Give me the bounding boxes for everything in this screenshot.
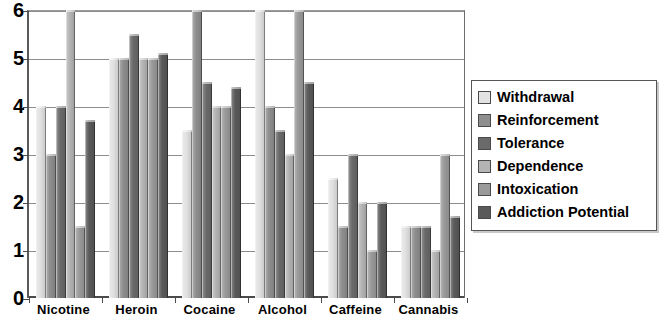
y-tick-label: 6: [2, 0, 24, 20]
x-tick-label: Nicotine: [37, 302, 90, 317]
chart-legend: WithdrawalReinforcementToleranceDependen…: [471, 80, 657, 231]
y-tick-mark: [23, 155, 29, 156]
legend-item[interactable]: Withdrawal: [478, 86, 650, 109]
legend-label: Intoxication: [497, 182, 578, 197]
plot-inner: [29, 11, 464, 298]
bar: [158, 53, 168, 298]
y-tick-mark: [23, 203, 29, 204]
plot-area: [27, 10, 465, 298]
bar: [285, 154, 295, 298]
legend-swatch-icon: [478, 91, 491, 104]
bar: [440, 154, 450, 298]
bar: [377, 202, 387, 298]
bar: [275, 130, 285, 298]
legend-swatch-icon: [478, 206, 491, 219]
bar: [338, 226, 348, 298]
bar: [46, 154, 56, 298]
bar-group-bars: [109, 11, 167, 298]
y-tick-label: 5: [2, 48, 24, 68]
legend-swatch-icon: [478, 137, 491, 150]
y-tick-label: 3: [2, 144, 24, 164]
bar: [328, 178, 338, 298]
bar-group: [182, 11, 240, 298]
legend-label: Reinforcement: [497, 113, 599, 128]
bar: [348, 154, 358, 298]
bar-group-bars: [36, 11, 94, 298]
bar: [75, 226, 85, 298]
x-tick-label: Cocaine: [184, 302, 236, 317]
x-tick-label: Cannabis: [398, 302, 458, 317]
legend-label: Addiction Potential: [497, 205, 629, 220]
bar: [85, 120, 95, 298]
y-tick-mark: [23, 107, 29, 108]
bar: [202, 82, 212, 298]
y-tick-label: 0: [2, 288, 24, 308]
y-tick-label: 2: [2, 192, 24, 212]
legend-item[interactable]: Addiction Potential: [478, 201, 650, 224]
bar: [231, 87, 241, 298]
bar: [129, 34, 139, 298]
y-tick-mark: [23, 59, 29, 60]
y-axis: 0123456: [0, 0, 24, 332]
bar: [431, 250, 441, 298]
legend-label: Tolerance: [497, 136, 564, 151]
bar-chart: 0123456 NicotineHeroinCocaineAlcoholCaff…: [0, 0, 663, 332]
legend-item[interactable]: Tolerance: [478, 132, 650, 155]
x-tick-label: Caffeine: [329, 302, 382, 317]
bar: [119, 58, 129, 298]
legend-label: Dependence: [497, 159, 583, 174]
bar: [109, 58, 119, 298]
bar: [411, 226, 421, 298]
x-axis: NicotineHeroinCocaineAlcoholCaffeineCann…: [27, 302, 465, 326]
y-tick-mark: [23, 11, 29, 12]
bar: [358, 202, 368, 298]
bar-group: [328, 11, 386, 298]
y-tick-mark: [23, 251, 29, 252]
bar: [294, 10, 304, 298]
bar: [255, 10, 265, 298]
bar: [304, 82, 314, 298]
bar-group-bars: [328, 11, 386, 298]
legend-swatch-icon: [478, 183, 491, 196]
bar: [401, 226, 411, 298]
bar-group-bars: [401, 11, 459, 298]
bar: [66, 10, 76, 298]
bar: [36, 106, 46, 298]
legend-label: Withdrawal: [497, 90, 574, 105]
legend-item[interactable]: Dependence: [478, 155, 650, 178]
bar-group-bars: [255, 11, 313, 298]
bar: [265, 106, 275, 298]
legend-swatch-icon: [478, 160, 491, 173]
bar: [421, 226, 431, 298]
bar: [192, 10, 202, 298]
bar-group-bars: [182, 11, 240, 298]
legend-swatch-icon: [478, 114, 491, 127]
legend-item[interactable]: Intoxication: [478, 178, 650, 201]
x-tick-label: Heroin: [115, 302, 157, 317]
x-tick-label: Alcohol: [258, 302, 307, 317]
bar-group: [255, 11, 313, 298]
bar-group: [36, 11, 94, 298]
bar: [139, 58, 149, 298]
x-tick-mark: [467, 298, 468, 303]
bar: [182, 130, 192, 298]
legend-item[interactable]: Reinforcement: [478, 109, 650, 132]
bar-group: [109, 11, 167, 298]
bar: [212, 106, 222, 298]
y-tick-label: 4: [2, 96, 24, 116]
bar-group: [401, 11, 459, 298]
bar: [56, 106, 66, 298]
bar: [221, 106, 231, 298]
y-tick-label: 1: [2, 240, 24, 260]
bar: [148, 58, 158, 298]
bar: [367, 250, 377, 298]
bar: [450, 216, 460, 298]
